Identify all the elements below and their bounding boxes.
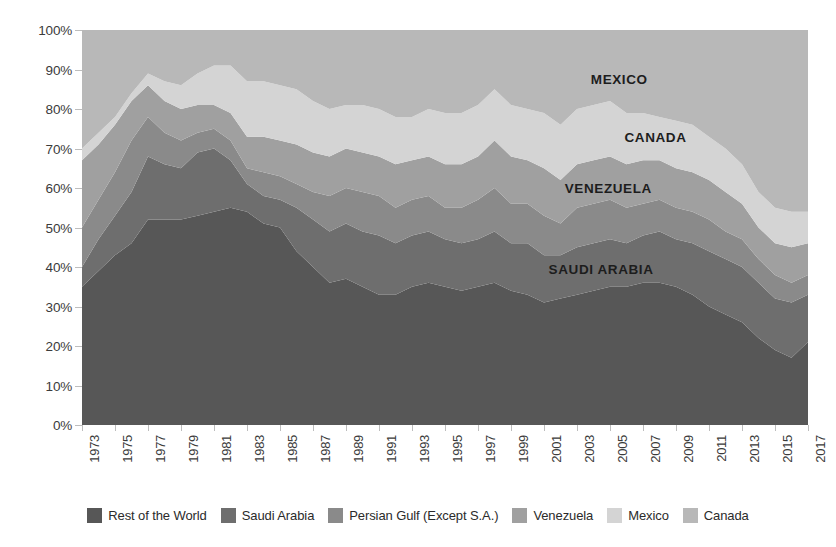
x-axis-tick-label: 1991 xyxy=(384,435,399,463)
x-axis-tick-mark xyxy=(148,425,149,431)
x-axis-tick-mark xyxy=(181,425,182,431)
y-axis-tick-mark xyxy=(75,346,82,347)
x-axis-tick-label: 2001 xyxy=(549,435,564,463)
x-axis-tick-mark xyxy=(478,425,479,431)
x-axis-tick-mark xyxy=(808,425,809,431)
legend-label: Saudi Arabia xyxy=(242,508,315,523)
legend-swatch-icon xyxy=(607,508,622,523)
x-axis-tick-mark xyxy=(412,425,413,431)
x-axis-tick-label: 1979 xyxy=(186,435,201,463)
x-axis-tick-label: 1973 xyxy=(87,435,102,463)
legend-item-saudi-arabia[interactable]: Saudi Arabia xyxy=(221,508,315,523)
chart-legend: Rest of the WorldSaudi ArabiaPersian Gul… xyxy=(0,503,836,527)
x-axis-tick-label: 2005 xyxy=(615,435,630,463)
chart-annotation-canada: CANADA xyxy=(624,129,686,144)
x-axis-tick-mark xyxy=(115,425,116,431)
y-axis-tick-label: 60% xyxy=(46,181,72,196)
legend-swatch-icon xyxy=(87,508,102,523)
x-axis-tick-label: 1985 xyxy=(285,435,300,463)
y-axis-tick-label: 10% xyxy=(46,378,72,393)
x-axis: 1973197519771979198119831985198719891991… xyxy=(82,425,808,500)
legend-label: Venezuela xyxy=(533,508,593,523)
y-axis-tick-label: 50% xyxy=(46,220,72,235)
x-axis-tick-mark xyxy=(742,425,743,431)
plot-area: MEXICOCANADAVENEZUELASAUDI ARABIA xyxy=(82,30,808,425)
x-axis-tick-label: 1977 xyxy=(153,435,168,463)
x-axis-tick-mark xyxy=(280,425,281,431)
x-axis-tick-mark xyxy=(676,425,677,431)
legend-item-canada[interactable]: Canada xyxy=(683,508,749,523)
legend-swatch-icon xyxy=(328,508,343,523)
x-axis-tick-label: 1989 xyxy=(351,435,366,463)
x-axis-tick-label: 1987 xyxy=(318,435,333,463)
legend-item-rest-of-the-world[interactable]: Rest of the World xyxy=(87,508,207,523)
x-axis-tick-label: 2007 xyxy=(648,435,663,463)
chart-figure: 0%10%20%30%40%50%60%70%80%90%100% MEXICO… xyxy=(0,0,836,547)
y-axis-tick-mark xyxy=(75,307,82,308)
legend-label: Canada xyxy=(704,508,749,523)
y-axis-tick-mark xyxy=(75,70,82,71)
legend-label: Rest of the World xyxy=(108,508,207,523)
x-axis-tick-mark xyxy=(82,425,83,431)
y-axis-tick-label: 100% xyxy=(38,23,72,38)
y-axis-tick-label: 30% xyxy=(46,299,72,314)
x-axis-tick-mark xyxy=(313,425,314,431)
legend-swatch-icon xyxy=(512,508,527,523)
stacked-area-svg xyxy=(82,30,808,425)
x-axis-tick-label: 1999 xyxy=(516,435,531,463)
y-axis-tick-label: 70% xyxy=(46,141,72,156)
y-axis-tick-mark xyxy=(75,30,82,31)
x-axis-tick-mark xyxy=(247,425,248,431)
x-axis-tick-mark xyxy=(214,425,215,431)
x-axis-tick-label: 2003 xyxy=(582,435,597,463)
legend-swatch-icon xyxy=(221,508,236,523)
y-axis-tick-mark xyxy=(75,188,82,189)
x-axis-tick-label: 2017 xyxy=(813,435,828,463)
x-axis-tick-label: 2015 xyxy=(780,435,795,463)
x-axis-tick-mark xyxy=(544,425,545,431)
chart-annotation-saudi-arabia: SAUDI ARABIA xyxy=(549,261,654,276)
x-axis-tick-mark xyxy=(346,425,347,431)
y-axis-tick-mark xyxy=(75,425,82,426)
y-axis-tick-mark xyxy=(75,109,82,110)
chart-annotation-mexico: MEXICO xyxy=(591,72,648,87)
x-axis-tick-mark xyxy=(610,425,611,431)
x-axis-tick-label: 1981 xyxy=(219,435,234,463)
x-axis-tick-mark xyxy=(445,425,446,431)
x-axis-tick-label: 1997 xyxy=(483,435,498,463)
legend-label: Persian Gulf (Except S.A.) xyxy=(349,508,498,523)
x-axis-tick-label: 1995 xyxy=(450,435,465,463)
y-axis-tick-label: 20% xyxy=(46,339,72,354)
y-axis-tick-label: 40% xyxy=(46,260,72,275)
x-axis-tick-mark xyxy=(511,425,512,431)
x-axis-tick-label: 2013 xyxy=(747,435,762,463)
y-axis-tick-label: 80% xyxy=(46,102,72,117)
x-axis-tick-label: 1975 xyxy=(120,435,135,463)
y-axis-tick-label: 0% xyxy=(53,418,72,433)
legend-swatch-icon xyxy=(683,508,698,523)
x-axis-tick-label: 2009 xyxy=(681,435,696,463)
y-axis-tick-mark xyxy=(75,228,82,229)
x-axis-tick-mark xyxy=(775,425,776,431)
x-axis-tick-label: 2011 xyxy=(714,435,729,462)
x-axis-tick-label: 1993 xyxy=(417,435,432,463)
y-axis-tick-mark xyxy=(75,386,82,387)
x-axis-tick-mark xyxy=(709,425,710,431)
y-axis: 0%10%20%30%40%50%60%70%80%90%100% xyxy=(0,30,82,425)
x-axis-tick-mark xyxy=(577,425,578,431)
legend-item-persian-gulf-except-s-a[interactable]: Persian Gulf (Except S.A.) xyxy=(328,508,498,523)
y-axis-tick-mark xyxy=(75,149,82,150)
x-axis-tick-label: 1983 xyxy=(252,435,267,463)
legend-item-venezuela[interactable]: Venezuela xyxy=(512,508,593,523)
legend-label: Mexico xyxy=(628,508,669,523)
x-axis-tick-mark xyxy=(379,425,380,431)
x-axis-tick-mark xyxy=(643,425,644,431)
legend-item-mexico[interactable]: Mexico xyxy=(607,508,669,523)
chart-annotation-venezuela: VENEZUELA xyxy=(565,181,652,196)
y-axis-tick-mark xyxy=(75,267,82,268)
y-axis-tick-label: 90% xyxy=(46,62,72,77)
